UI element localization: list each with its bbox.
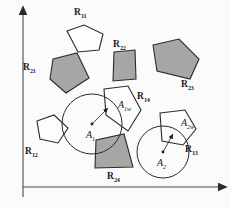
region-label-sub: 11 [81,12,86,19]
region-shape-R22[interactable] [113,50,136,81]
region-label-R23: R23 [181,80,194,91]
region-label-R22: R22 [113,40,126,51]
pointer-line-A1w [92,108,108,124]
area-label-A2: A2 [157,158,166,170]
region-shape-R24[interactable] [95,134,133,168]
region-label-base: R [23,62,30,72]
region-label-R14: R14 [137,92,150,103]
region-shape-R11[interactable] [67,25,103,52]
region-label-base: R [107,171,114,181]
region-shape-R23[interactable] [153,39,199,79]
region-label-R13: R13 [185,145,198,156]
region-label-sub: 21 [30,67,36,74]
region-label-base: R [74,7,81,17]
area-label-sub: 2 [163,163,166,170]
area-label-A1: A1 [86,130,95,142]
figure-container: R11 R12 R13 R14 R21 R22 R23 R24 A1 A1w A… [0,0,231,208]
region-label-sub: 24 [114,176,120,183]
region-label-sub: 23 [188,84,194,91]
area-label-A1w: A1w [118,100,131,112]
area-label-sub: 1 [92,135,95,142]
region-label-sub: 22 [120,44,126,51]
region-label-sub: 13 [192,149,198,156]
area-label-sub: 1w [124,105,131,112]
region-label-sub: 12 [32,151,38,158]
region-label-R24: R24 [107,172,120,183]
region-label-base: R [25,146,32,156]
region-label-base: R [185,144,192,154]
area-label-A2w: A2w [181,118,194,130]
region-label-sub: 14 [144,96,150,103]
region-label-R21: R21 [23,63,36,74]
region-label-base: R [137,91,144,101]
region-label-base: R [113,39,120,49]
region-label-R12: R12 [25,147,38,158]
region-shape-R12[interactable] [37,115,68,143]
region-label-R11: R11 [74,8,86,19]
region-shape-R21[interactable] [50,53,89,93]
region-label-base: R [181,79,188,89]
area-label-sub: 2w [187,123,194,130]
